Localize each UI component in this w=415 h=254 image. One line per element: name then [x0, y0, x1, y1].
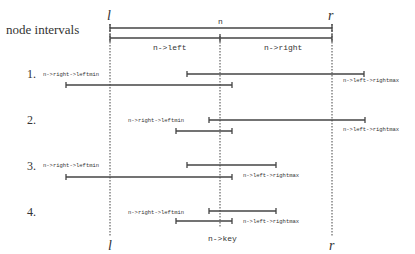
case-2: 2. n->right->leftmin n->left->rightmax — [27, 113, 400, 134]
case-4: 4. n->right->leftmin n->left->rightmax — [27, 205, 300, 225]
left-subtree-interval — [66, 174, 232, 180]
leftmin-label: n->right->leftmin — [128, 117, 184, 124]
top-r-label: r — [328, 8, 334, 23]
leftmin-label: n->right->leftmin — [128, 209, 184, 216]
right-subtree-interval — [187, 71, 364, 77]
rightmax-label: n->left->rightmax — [343, 126, 400, 133]
n-label: n — [218, 17, 223, 26]
case-number: 4. — [27, 205, 36, 219]
top-l-label: l — [107, 8, 111, 23]
bottom-r-label: r — [329, 238, 335, 253]
right-subtree-interval — [187, 162, 276, 168]
node-intervals-diagram: node intervals l r n n->left n->right 1.… — [0, 0, 415, 254]
case-number: 2. — [27, 113, 36, 127]
children-interval — [110, 34, 332, 42]
case-3: 3. n->right->leftmin n->left->rightmax — [27, 159, 300, 180]
rightmax-label: n->left->rightmax — [243, 218, 300, 225]
diagram-title: node intervals — [6, 22, 79, 37]
right-subtree-interval — [209, 208, 276, 214]
rightmax-label: n->left->rightmax — [343, 77, 400, 84]
leftmin-label: n->right->leftmin — [43, 162, 99, 169]
case-number: 3. — [27, 159, 36, 173]
key-label: n->key — [208, 234, 237, 243]
case-1: 1. n->right->leftmin n->left->rightmax — [27, 67, 400, 88]
case-number: 1. — [27, 67, 36, 81]
n-right-label: n->right — [264, 43, 302, 52]
bottom-l-label: l — [108, 238, 112, 253]
rightmax-label: n->left->rightmax — [243, 172, 300, 179]
n-left-label: n->left — [153, 43, 187, 52]
left-subtree-interval — [176, 218, 232, 224]
right-subtree-interval — [209, 117, 365, 123]
leftmin-label: n->right->leftmin — [43, 71, 99, 78]
left-subtree-interval — [66, 82, 232, 88]
left-subtree-interval — [176, 128, 232, 134]
